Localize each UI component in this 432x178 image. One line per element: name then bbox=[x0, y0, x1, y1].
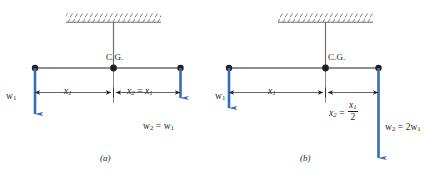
hatch-fill-a bbox=[66, 14, 161, 23]
force-label-left-a: w1 bbox=[6, 92, 16, 102]
dim-fraction-denominator-b: 2 bbox=[348, 113, 358, 123]
dimension-label-x2-a: x2=x1 bbox=[127, 87, 153, 97]
dim-fraction-numerator-b: x1 bbox=[348, 101, 358, 111]
force-lhs-symbol-b: w bbox=[385, 122, 392, 132]
force-relation-a: = bbox=[153, 121, 163, 131]
cg-label-a: C.G. bbox=[106, 53, 123, 62]
force-rhs-symbol-a: w bbox=[164, 121, 171, 131]
dim-relation-b: = bbox=[337, 108, 347, 118]
hatch-fill-b bbox=[278, 14, 373, 23]
panel-b-drawing bbox=[226, 14, 382, 159]
caption-b: (b) bbox=[300, 154, 311, 163]
force-rhs-subscript-a: 1 bbox=[171, 124, 174, 131]
figure-container: C.G. w1 w2=w1 x1 x2=x1 (a) C.G. w1 w2=2w… bbox=[0, 0, 432, 178]
dim-fraction-num-subscript-b: 1 bbox=[353, 103, 356, 110]
dimension-label-x1-a: x1 bbox=[64, 87, 72, 97]
force-lhs-symbol-a: w bbox=[143, 121, 150, 131]
cg-label-b: C.G. bbox=[328, 53, 345, 62]
caption-a: (a) bbox=[100, 154, 111, 163]
force-rhs-subscript-b: 1 bbox=[417, 125, 420, 132]
force-symbol-w1-b: w bbox=[215, 91, 222, 101]
dimension-label-x1-b: x1 bbox=[268, 87, 276, 97]
ceiling-support-a bbox=[66, 14, 161, 23]
force-symbol-w1-a: w bbox=[6, 91, 13, 101]
dim-subscript-x1-b: 1 bbox=[272, 89, 275, 96]
force-label-right-a: w2=w1 bbox=[143, 122, 174, 132]
node-cg-a bbox=[110, 65, 117, 72]
force-relation-b: = bbox=[395, 122, 405, 132]
dim-subscript-x1-a: 1 bbox=[68, 89, 71, 96]
force-subscript-w1-b: 1 bbox=[222, 94, 225, 101]
node-cg-b bbox=[322, 65, 329, 72]
ceiling-support-b bbox=[278, 14, 373, 23]
dimension-label-x2-b: x2=x12 bbox=[329, 101, 359, 123]
dim-fraction-b: x12 bbox=[347, 101, 359, 123]
force-label-right-b: w2=2w1 bbox=[385, 123, 421, 133]
dim-relation-a: = bbox=[135, 86, 145, 96]
force-label-left-b: w1 bbox=[215, 92, 225, 102]
panel-a-drawing bbox=[32, 14, 184, 115]
dim-rhs-subscript-a: 1 bbox=[149, 89, 152, 96]
force-subscript-w1-a: 1 bbox=[13, 94, 16, 101]
